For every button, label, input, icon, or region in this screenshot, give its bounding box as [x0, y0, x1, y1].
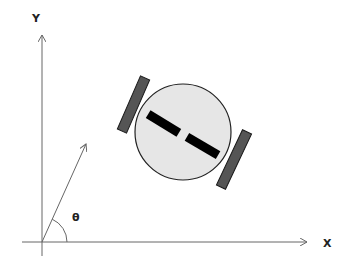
x-axis-label: X	[323, 237, 332, 250]
robot	[117, 76, 251, 189]
theta-label: θ	[72, 211, 80, 224]
y-axis-label: Y	[31, 12, 41, 25]
diagram-canvas: Y X θ	[0, 0, 349, 266]
angle-arc	[52, 219, 67, 242]
robot-body	[135, 84, 231, 180]
heading-vector	[42, 144, 86, 242]
